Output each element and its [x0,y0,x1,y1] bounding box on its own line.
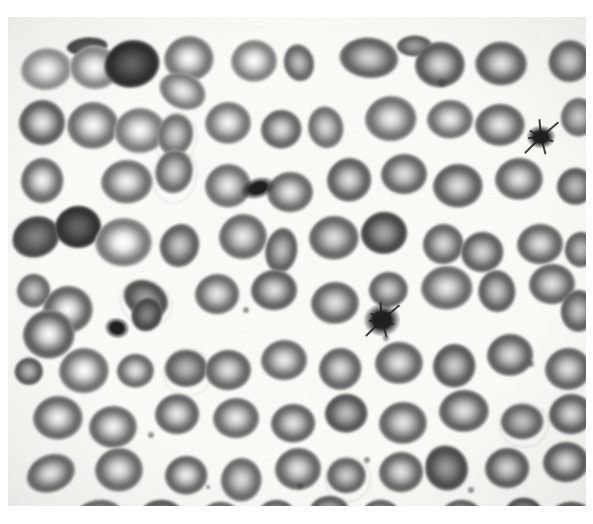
erythrocyte [58,347,114,403]
erythrocyte [32,395,88,449]
erythrocyte [324,393,372,441]
erythrocyte [472,39,534,97]
microscope-field-of-view [8,17,586,506]
erythrocyte [20,445,88,506]
erythrocyte [250,269,302,319]
erythrocyte [14,357,46,391]
erythrocyte [420,265,478,319]
erythrocyte [212,397,264,447]
erythrocyte [378,401,432,453]
erythrocyte [500,403,548,447]
erythrocyte [318,347,366,399]
stain-artifact [148,432,154,438]
erythrocyte [100,159,158,213]
erythrocyte [556,167,586,213]
erythrocyte [230,39,282,91]
platelet-spicules [509,108,573,166]
erythrocyte [378,451,428,501]
erythrocyte [484,447,534,497]
erythrocyte [274,447,326,499]
stain-artifact [383,335,389,341]
erythrocyte [544,347,586,399]
erythrocyte [94,217,158,277]
stain-artifact [364,457,370,463]
erythrocyte [18,99,70,155]
stain-artifact [468,487,474,493]
erythrocyte [504,497,546,506]
erythrocyte [164,455,212,503]
erythrocyte [548,393,586,443]
erythrocyte [548,501,586,506]
erythrocyte [151,218,208,282]
erythrocyte [303,101,353,160]
erythrocyte [260,109,306,157]
erythrocyte [279,40,323,93]
erythrocyte [336,34,407,91]
erythrocyte [94,447,148,501]
erythrocyte [438,389,494,441]
erythrocyte [260,339,312,389]
stain-artifact [438,79,446,87]
erythrocyte [204,101,256,153]
erythrocyte [326,157,376,211]
erythrocyte [542,441,586,491]
erythrocyte [220,457,266,506]
erythrocyte [360,211,412,263]
erythrocyte [380,153,432,203]
erythrocyte [194,273,244,323]
erythrocyte [426,99,478,147]
erythrocyte [204,349,256,399]
erythrocyte [308,215,364,269]
stain-artifact [243,307,249,313]
stain-artifact [206,485,210,489]
erythrocyte [256,499,300,506]
stain-artifact [297,483,303,489]
platelet-spicules [346,286,418,354]
erythrocyte [432,163,488,217]
erythrocyte [545,36,586,94]
erythrocyte [20,157,68,213]
stain-artifact [528,361,534,367]
erythrocyte [364,95,422,151]
erythrocyte [154,393,204,443]
erythrocyte [440,499,486,506]
erythrocyte [270,403,320,451]
erythrocyte [116,353,158,395]
erythrocyte [414,41,470,97]
micrograph-figure [0,0,593,524]
platelet [102,315,132,342]
erythrocyte [486,333,538,385]
erythrocyte [416,435,485,506]
photomicrograph-image [0,0,593,524]
